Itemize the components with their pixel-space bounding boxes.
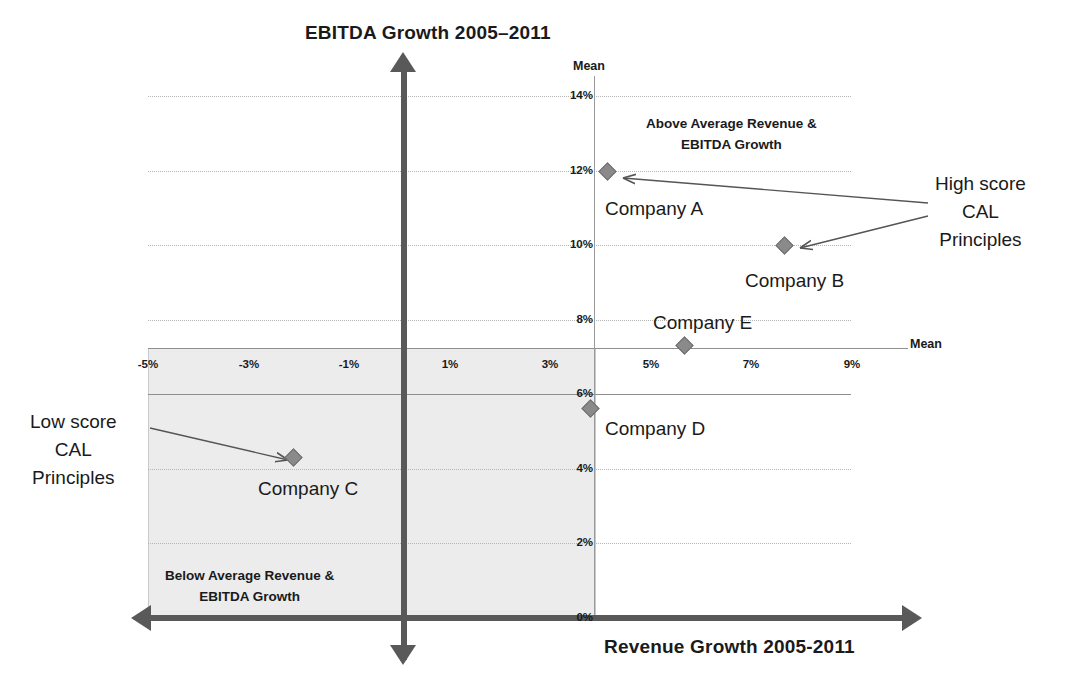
annotation-above-average-line1: Above Average Revenue & <box>646 113 817 134</box>
x-tick-5: 5% <box>631 358 671 370</box>
x-axis-left-arrow-icon <box>131 605 151 631</box>
vertical-mean-line <box>594 76 595 621</box>
y-tick-4: 4% <box>553 462 593 474</box>
data-label-company-e: Company E <box>653 312 752 334</box>
y-tick-6: 6% <box>553 387 593 399</box>
x-tick--1: -1% <box>329 358 369 370</box>
annotation-below-average-line2: EBITDA Growth <box>165 586 334 607</box>
y-axis-up-arrow-icon <box>390 52 416 72</box>
horizontal-mean-line <box>148 348 908 349</box>
data-label-company-a: Company A <box>605 198 703 220</box>
callout-low-score-line1: Low score <box>30 408 117 436</box>
callout-high-score-line1: High score <box>935 170 1026 198</box>
data-label-company-c: Company C <box>258 478 358 500</box>
data-point-company-a[interactable] <box>598 162 616 180</box>
gridline-12 <box>148 171 851 172</box>
x-mean-label: Mean <box>573 59 605 73</box>
y-tick-0: 0% <box>553 611 593 623</box>
callout-low-score-line3: Principles <box>30 464 117 492</box>
x-tick--3: -3% <box>229 358 269 370</box>
callout-high-score-line3: Principles <box>935 226 1026 254</box>
y-tick-8: 8% <box>553 313 593 325</box>
data-point-company-b[interactable] <box>775 236 793 254</box>
x-tick-3: 3% <box>530 358 570 370</box>
x-tick-9: 9% <box>832 358 872 370</box>
y-tick-2: 2% <box>553 536 593 548</box>
x-tick--5: -5% <box>128 358 168 370</box>
data-point-company-e[interactable] <box>675 336 693 354</box>
annotation-below-average: Below Average Revenue & EBITDA Growth <box>165 565 334 607</box>
callout-low-score-line2: CAL <box>30 436 117 464</box>
y-tick-10: 10% <box>553 238 593 250</box>
chart-title: EBITDA Growth 2005–2011 <box>305 22 551 44</box>
annotation-below-average-line1: Below Average Revenue & <box>165 565 334 586</box>
x-axis-right-arrow-icon <box>902 605 922 631</box>
gridline-6 <box>148 394 851 395</box>
gridline-14 <box>148 96 851 97</box>
gridline-4 <box>148 469 851 470</box>
gridline-10 <box>148 245 851 246</box>
annotation-above-average-line2: EBITDA Growth <box>646 134 817 155</box>
y-tick-12: 12% <box>553 164 593 176</box>
data-label-company-b: Company B <box>745 270 844 292</box>
chart-canvas: EBITDA Growth 2005–2011 Revenue Growth 2… <box>0 0 1079 696</box>
x-tick-1: 1% <box>430 358 470 370</box>
annotation-above-average: Above Average Revenue & EBITDA Growth <box>646 113 817 155</box>
y-axis-line <box>401 60 407 660</box>
callout-low-score: Low score CAL Principles <box>30 408 117 492</box>
y-mean-label: Mean <box>910 337 942 351</box>
x-axis-line <box>150 615 907 621</box>
callout-high-score: High score CAL Principles <box>935 170 1026 254</box>
y-tick-14: 14% <box>553 89 593 101</box>
data-label-company-d: Company D <box>605 418 705 440</box>
x-tick-7: 7% <box>731 358 771 370</box>
x-axis-title: Revenue Growth 2005-2011 <box>604 636 855 658</box>
gridline-2 <box>148 543 851 544</box>
y-axis-down-arrow-icon <box>390 645 416 665</box>
callout-high-score-line2: CAL <box>935 198 1026 226</box>
